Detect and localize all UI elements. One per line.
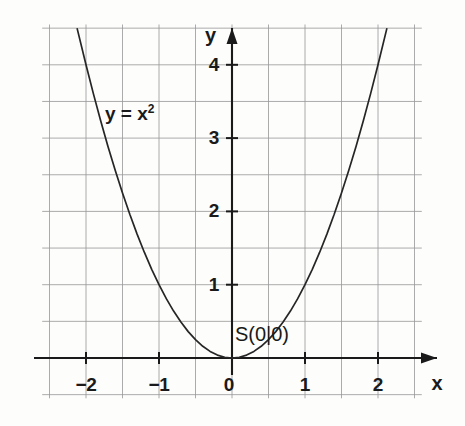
- x-tick-label-1: 1: [300, 374, 310, 396]
- x-tick-label-neg1: −1: [148, 374, 169, 396]
- curve-equation-label: y = x2: [105, 103, 154, 125]
- x-tick-label-neg2: −2: [75, 374, 96, 396]
- x-tick-label-0: 0: [224, 374, 234, 396]
- y-axis-label: y: [205, 24, 216, 47]
- y-tick-label-2: 2: [209, 200, 219, 222]
- x-axis-label: x: [431, 372, 442, 395]
- curve-equation-exponent: 2: [148, 102, 155, 116]
- x-tick-label-2: 2: [373, 374, 383, 396]
- y-tick-label-1: 1: [209, 274, 219, 296]
- curve-equation-base: y = x: [105, 103, 148, 124]
- vertex-annotation: S(0|0): [235, 322, 289, 345]
- parabola-figure: 4 3 2 1 −2 −1 0 1 2 y x y = x2 S(0|0): [0, 0, 465, 426]
- y-tick-label-3: 3: [209, 127, 219, 149]
- plot-canvas: [0, 0, 465, 426]
- y-tick-label-4: 4: [209, 54, 219, 76]
